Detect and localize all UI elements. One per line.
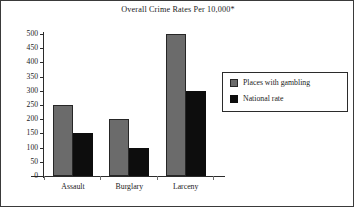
y-tick-mark: [40, 162, 44, 163]
y-tick-label: 300: [27, 87, 38, 95]
gray-swatch-icon: [230, 79, 238, 87]
x-tick-label: Assault: [61, 183, 84, 191]
y-tick-mark: [40, 91, 44, 92]
x-tick-mark: [100, 176, 101, 180]
y-tick-label: 450: [27, 44, 38, 52]
y-tick-mark: [40, 119, 44, 120]
chart-figure: Overall Crime Rates Per 10,000* 05010015…: [0, 0, 354, 207]
bar: [109, 119, 129, 176]
y-tick-label: 50: [30, 158, 38, 166]
y-tick-label: 0: [34, 172, 38, 180]
y-tick-mark: [40, 105, 44, 106]
y-tick-mark: [40, 77, 44, 78]
bar: [186, 91, 206, 176]
bar: [73, 133, 93, 176]
y-tick-label: 350: [27, 73, 38, 81]
y-tick-mark: [40, 148, 44, 149]
y-tick-label: 200: [27, 115, 38, 123]
y-tick-mark: [40, 34, 44, 35]
legend-label: National rate: [243, 95, 283, 103]
legend-item-places-with-gambling: Places with gambling: [230, 79, 310, 87]
x-tick-label: Burglary: [116, 183, 144, 191]
x-tick-mark: [213, 176, 214, 180]
y-tick-label: 100: [27, 144, 38, 152]
x-tick-mark: [157, 176, 158, 180]
y-tick-label: 250: [27, 101, 38, 109]
plot-area: 050100150200250300350400450500: [44, 34, 213, 176]
y-tick-label: 400: [27, 59, 38, 67]
y-tick-label: 150: [27, 130, 38, 138]
x-tick-label: Larceny: [173, 183, 199, 191]
x-axis-line: [31, 176, 225, 177]
legend-label: Places with gambling: [243, 79, 310, 87]
black-swatch-icon: [230, 95, 238, 103]
bar: [129, 148, 149, 176]
legend-item-national-rate: National rate: [230, 95, 283, 103]
y-tick-mark: [40, 48, 44, 49]
bar: [166, 34, 186, 176]
x-tick-mark: [44, 176, 45, 180]
chart-title: Overall Crime Rates Per 10,000*: [1, 5, 354, 14]
y-tick-label: 500: [27, 30, 38, 38]
y-tick-mark: [40, 62, 44, 63]
chart-legend: Places with gambling National rate: [222, 72, 348, 112]
bar: [53, 105, 73, 176]
y-tick-mark: [40, 133, 44, 134]
